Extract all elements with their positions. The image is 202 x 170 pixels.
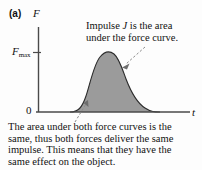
callout-leader-line-upper [126, 47, 145, 64]
caption-line-4: same effect on the object. [8, 156, 200, 168]
callout-line-1: Impulse J is the area [86, 20, 202, 32]
impulse-force-curve-figure: (a) F t 0 Fmax Impulse J is the area und… [0, 0, 202, 170]
callout-line-1-pre: Impulse [86, 20, 122, 31]
caption-line-3: impulse. This means that they have the [8, 144, 200, 156]
impulse-callout-text: Impulse J is the area under the force cu… [86, 20, 202, 44]
caption-line-1: The area under both force curves is the [8, 121, 200, 133]
callout-arrowhead-upper [122, 64, 130, 70]
callout-line-1-post: is the area [127, 20, 172, 31]
figure-caption: The area under both force curves is the … [8, 121, 200, 167]
caption-line-2: same, thus both forces deliver the same [8, 133, 200, 145]
callout-line-2: under the force curve. [86, 32, 202, 44]
